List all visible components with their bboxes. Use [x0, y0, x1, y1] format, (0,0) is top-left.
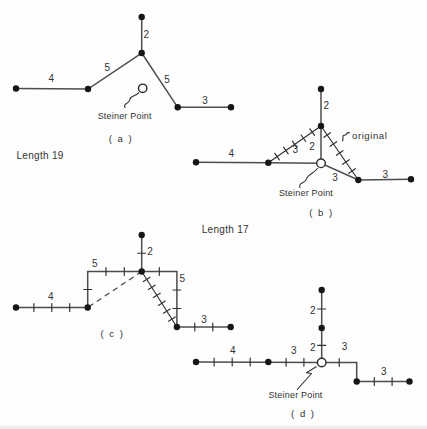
- edge-label: 5: [179, 273, 185, 284]
- terminal-dot: [85, 86, 91, 92]
- terminal-dot: [406, 378, 412, 384]
- terminal-dot: [265, 160, 271, 166]
- edge-label: 2: [309, 141, 315, 152]
- caption-c: ( c ): [101, 328, 125, 339]
- junction-dot: [318, 123, 324, 129]
- edge-label: 2: [310, 342, 316, 353]
- edge-label: 4: [49, 73, 55, 84]
- edge-label: 5: [92, 258, 98, 269]
- terminal-dot: [228, 324, 234, 330]
- diagram-a: 2 5 5 4 3 Steiner Point ( a ) Length 19: [13, 14, 234, 161]
- terminal-dot: [355, 177, 361, 183]
- edge-label: 3: [332, 172, 338, 183]
- terminal-dot: [139, 232, 145, 238]
- caption-a: ( a ): [109, 133, 133, 144]
- diagram-b: 2 2 3 4 3 3 original Steiner Point ( b )…: [193, 86, 414, 235]
- edge-label: 4: [48, 291, 54, 302]
- terminal-dot: [265, 359, 271, 365]
- edge-label: 2: [144, 29, 150, 40]
- terminal-dot: [193, 159, 199, 165]
- edge-label: 2: [147, 246, 153, 257]
- edge-label: 3: [201, 314, 207, 325]
- terminal-dot: [174, 324, 180, 330]
- diagram-d: 2 2 4 3 3 3 Steiner Point ( d ): [193, 287, 413, 419]
- steiner-point-label: Steiner Point: [279, 188, 333, 198]
- steiner-point-circle: [317, 159, 326, 168]
- tree-edges: [16, 235, 231, 327]
- steiner-tree-figure: 2 5 5 4 3 Steiner Point ( a ) Length 19 …: [0, 0, 427, 429]
- terminal-dot: [318, 86, 324, 92]
- original-label: original: [352, 130, 387, 141]
- tree-edges: [16, 17, 231, 107]
- steiner-point-label: Steiner Point: [98, 111, 152, 121]
- original-pointer-squiggle: [343, 133, 350, 141]
- steiner-pointer-arrow: [300, 169, 318, 188]
- edge-label: 2: [324, 100, 330, 111]
- terminal-dot: [354, 378, 360, 384]
- edge-label: 5: [164, 74, 170, 85]
- figure-canvas: 2 5 5 4 3 Steiner Point ( a ) Length 19 …: [0, 0, 427, 429]
- terminal-dot: [139, 14, 145, 20]
- terminal-dot: [319, 287, 325, 293]
- terminal-dot: [85, 304, 91, 310]
- caption-d: ( d ): [291, 408, 315, 419]
- edge-label: 2: [310, 305, 316, 316]
- tree-edges: [196, 290, 410, 382]
- steiner-pointer-arrow: [125, 93, 139, 108]
- terminal-dot: [408, 176, 414, 182]
- terminal-dot: [175, 104, 181, 110]
- dashed-diagonal-edge: [88, 272, 142, 308]
- length-label-b: Length 17: [202, 224, 249, 235]
- steiner-pointer-arrow: [297, 367, 316, 390]
- edge-label: 3: [293, 144, 299, 155]
- steiner-point-label: Steiner Point: [268, 390, 322, 400]
- steiner-point-circle: [317, 358, 326, 367]
- edge-label: 3: [383, 169, 389, 180]
- edge-label: 3: [202, 95, 208, 106]
- terminal-dot: [228, 104, 234, 110]
- edge-label: 4: [229, 148, 235, 159]
- unit-ticks: [214, 309, 392, 386]
- terminal-dot: [13, 304, 19, 310]
- edge-label: 3: [381, 366, 387, 377]
- terminal-dot: [13, 85, 19, 91]
- edge-label: 3: [342, 341, 348, 352]
- terminal-dot: [193, 359, 199, 365]
- steiner-point-circle: [139, 84, 147, 92]
- edge-label: 3: [291, 345, 297, 356]
- junction-dot: [139, 50, 145, 56]
- caption-b: ( b ): [309, 207, 333, 218]
- unit-ticks: [34, 253, 213, 331]
- diagram-c: 2 5 5 4 3 ( c ): [13, 232, 234, 339]
- length-label-a: Length 19: [17, 150, 64, 161]
- terminal-dot: [319, 325, 325, 331]
- edge-label: 5: [105, 62, 111, 73]
- junction-dot: [139, 268, 145, 274]
- edge-label: 4: [230, 345, 236, 356]
